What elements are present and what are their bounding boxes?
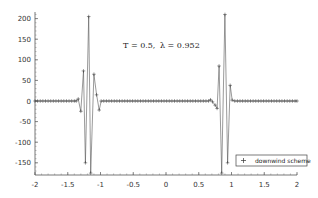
legend: downwind scheme [236,155,311,166]
plus-marker-icon [217,64,221,68]
annotation-lambda: λ = 0.952 [160,41,200,50]
x-tick-label: -1 [97,181,104,189]
plus-marker-icon [220,171,224,175]
plus-marker-icon [215,107,219,111]
plus-marker-icon [84,161,88,165]
plus-marker-icon [95,93,99,97]
plus-marker-icon [82,69,86,73]
plus-marker-icon [295,99,299,103]
y-tick-label: -150 [15,159,31,167]
x-tick-label: 0 [164,181,168,189]
plus-marker-icon [223,13,227,17]
y-tick-label: -50 [20,118,31,126]
plus-marker-icon [226,161,230,165]
y-tick-label: 100 [18,56,31,64]
plus-marker-icon [92,72,96,76]
x-tick-label: -2 [32,181,39,189]
legend-label: downwind scheme [255,157,311,164]
parameter-annotation: T = 0.5, λ = 0.952 [123,41,200,50]
plus-marker-icon [87,15,91,19]
y-tick-label: 50 [22,77,31,85]
series-downwind-scheme [33,13,299,175]
y-tick-label: -100 [15,139,31,147]
plus-marker-icon [230,98,234,102]
annotation-T: T = 0.5, [123,41,155,50]
x-tick-label: 1 [229,181,233,189]
x-tick-label: 2 [295,181,299,189]
plus-marker-icon [89,171,93,175]
x-tick-label: -0.5 [126,181,140,189]
y-tick-label: 150 [18,36,31,44]
plus-marker-icon [97,108,101,112]
y-tick-label: 200 [18,15,31,23]
x-tick-label: 1.5 [259,181,270,189]
series-line [35,15,297,174]
x-tick-label: 0.5 [193,181,204,189]
plus-marker-icon [228,84,232,88]
plus-marker-icon [79,110,83,114]
y-tick-label: 0 [27,98,31,106]
chart: -150-100-50050100150200-2-1.5-1-0.500.51… [0,0,318,198]
x-tick-label: -1.5 [61,181,75,189]
